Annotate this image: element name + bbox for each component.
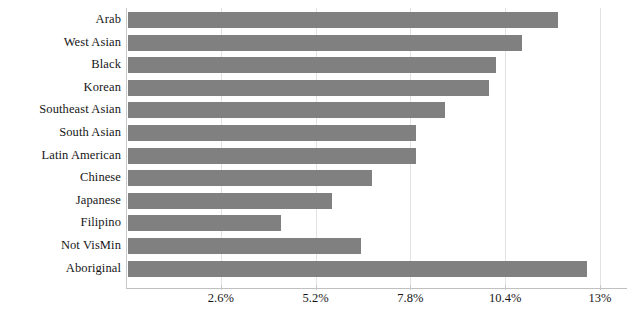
y-axis-line	[126, 8, 127, 288]
bar	[128, 102, 445, 118]
category-axis: ArabWest AsianBlackKoreanSoutheast Asian…	[0, 0, 121, 288]
bar	[128, 261, 587, 277]
category-label: Latin American	[0, 149, 121, 162]
category-label: Japanese	[0, 194, 121, 207]
bar	[128, 35, 522, 51]
x-tick-label: 10.4%	[489, 291, 521, 306]
category-label: West Asian	[0, 36, 121, 49]
bar	[128, 57, 496, 73]
category-label: Korean	[0, 81, 121, 94]
x-tick-mark	[316, 285, 317, 290]
bar	[128, 12, 558, 28]
x-axis-line	[126, 288, 627, 289]
x-tick-label: 5.2%	[303, 291, 329, 306]
x-tick-label: 13%	[589, 291, 612, 306]
bar	[128, 170, 372, 186]
x-tick-mark	[410, 285, 411, 290]
bar	[128, 80, 489, 96]
category-label: Black	[0, 58, 121, 71]
plot-area	[126, 8, 627, 288]
category-label: Arab	[0, 13, 121, 26]
value-axis: 2.6%5.2%7.8%10.4%13%	[126, 291, 627, 315]
bar	[128, 125, 416, 141]
x-tick-mark	[600, 285, 601, 290]
x-tick-mark	[221, 285, 222, 290]
bar	[128, 148, 416, 164]
category-label: Aboriginal	[0, 262, 121, 275]
category-label: Filipino	[0, 216, 121, 229]
bar-chart: ArabWest AsianBlackKoreanSoutheast Asian…	[0, 0, 627, 327]
x-tick-mark	[505, 285, 506, 290]
category-label: Not VisMin	[0, 239, 121, 252]
bar	[128, 238, 361, 254]
x-tick-label: 2.6%	[208, 291, 234, 306]
bar	[128, 193, 332, 209]
bar	[128, 215, 281, 231]
category-label: South Asian	[0, 126, 121, 139]
gridline	[600, 8, 601, 288]
category-label: Southeast Asian	[0, 103, 121, 116]
x-tick-label: 7.8%	[397, 291, 423, 306]
category-label: Chinese	[0, 171, 121, 184]
